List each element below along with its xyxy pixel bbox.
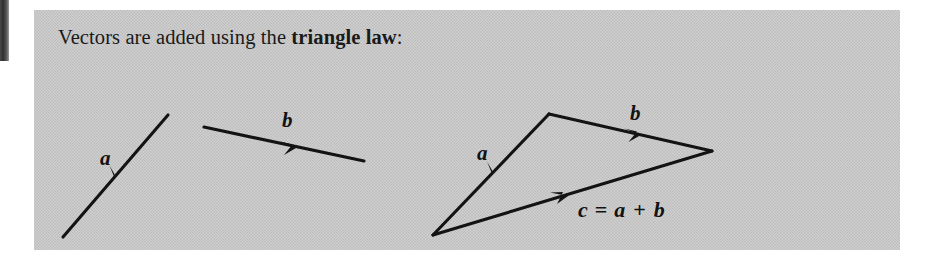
illustration-panel: Vectors are added using the triangle law… (34, 10, 900, 250)
sum-term-a: a (614, 197, 625, 222)
vector-diagram-svg: a b a b c=a (34, 10, 900, 250)
vector-a-label: a (100, 146, 111, 170)
sum-op-plus: + (633, 197, 646, 222)
sum-op-equals: = (595, 197, 608, 222)
sum-term-b: b (654, 197, 665, 222)
triangle-label-b: b (630, 101, 641, 125)
triangle-sum-label: c=a+b (578, 197, 665, 222)
diagram-vector-b: b (204, 108, 364, 161)
vector-b-shaft (204, 127, 364, 161)
sum-term-c: c (578, 197, 588, 222)
vector-b-label: b (282, 108, 293, 132)
diagram-triangle-law: a b c=a+b (433, 101, 712, 235)
diagram-vector-a: a (63, 115, 168, 237)
figure-root: Vectors are added using the triangle law… (0, 0, 939, 274)
page-edge-marker (0, 0, 9, 61)
triangle-label-a: a (477, 141, 488, 165)
